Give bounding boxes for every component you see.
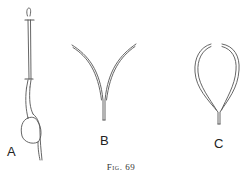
figure-caption: Fig. 69: [0, 162, 242, 172]
drawing-a: [21, 8, 42, 160]
panel-label-a: A: [7, 145, 16, 158]
drawing-c: [195, 44, 239, 124]
drawing-b: [72, 44, 136, 120]
figure: A B C Fig. 69: [0, 0, 242, 180]
figure-drawings: [0, 0, 242, 180]
panel-label-b: B: [100, 134, 109, 147]
panel-label-c: C: [214, 137, 223, 150]
